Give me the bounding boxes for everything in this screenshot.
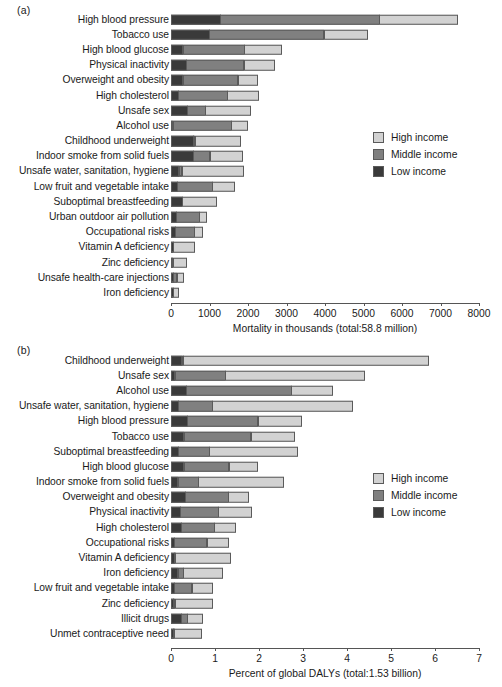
bar-segment-high: [175, 598, 214, 609]
bar-segment-high: [227, 90, 259, 101]
bar-segment-high: [228, 492, 249, 503]
stacked-bar: [171, 507, 252, 518]
bar-segment-high: [174, 629, 201, 640]
legend-swatch-high: [373, 132, 384, 143]
legend-swatch-low: [373, 166, 384, 177]
stacked-bar: [171, 90, 259, 101]
stacked-bar: [171, 257, 187, 268]
bar-row: Unsafe sex: [0, 103, 502, 118]
category-label: Unsafe water, sanitation, hygiene: [19, 401, 169, 411]
bar-row: Tobacco use: [0, 429, 502, 444]
axis-tick: [303, 648, 304, 651]
bar-row: Iron deficiency: [0, 285, 502, 300]
bar-segment-middle: [193, 151, 210, 162]
stacked-bar: [171, 371, 365, 382]
bar-row: Childhood underweight: [0, 353, 502, 368]
axis-tick: [210, 303, 211, 306]
bar-row: Suboptimal breastfeeding: [0, 444, 502, 459]
bar-segment-low: [171, 14, 221, 25]
axis-tick-label: 4: [344, 653, 350, 664]
category-label: Indoor smoke from solid fuels: [36, 151, 169, 161]
category-label: Vitamin A deficiency: [79, 242, 169, 252]
stacked-bar: [171, 583, 213, 594]
legend-label: High income: [391, 132, 448, 143]
bar-segment-middle: [209, 30, 325, 41]
panel-b-axis-title: Percent of global DALYs (total:1.53 bill…: [171, 668, 479, 679]
stacked-bar: [171, 522, 236, 533]
bar-row: Tobacco use: [0, 27, 502, 42]
bar-row: Low fruit and vegetable intake: [0, 581, 502, 596]
bar-segment-middle: [178, 446, 210, 457]
bar-segment-high: [205, 105, 250, 116]
category-label: Zinc deficiency: [102, 257, 169, 267]
stacked-bar: [171, 431, 295, 442]
bar-segment-middle: [174, 538, 207, 549]
legend-label: Low income: [391, 507, 446, 518]
category-label: Physical inactivity: [89, 507, 169, 517]
axis-tick: [325, 303, 326, 306]
bar-row: Iron deficiency: [0, 566, 502, 581]
bar-segment-high: [212, 181, 234, 192]
stacked-bar: [171, 75, 258, 86]
bar-segment-high: [209, 446, 298, 457]
bar-segment-high: [258, 416, 302, 427]
bar-segment-middle: [180, 507, 219, 518]
bar-segment-high: [207, 538, 229, 549]
bar-segment-high: [182, 166, 245, 177]
bar-segment-middle: [173, 121, 232, 132]
legend-label: Middle income: [391, 149, 457, 160]
bar-segment-low: [171, 45, 183, 56]
stacked-bar: [171, 553, 231, 564]
axis-tick: [441, 303, 442, 306]
bar-row: Vitamin A deficiency: [0, 240, 502, 255]
bar-segment-high: [229, 462, 258, 473]
bar-segment-low: [171, 30, 210, 41]
bar-segment-low: [171, 75, 183, 86]
bar-row: High cholesterol: [0, 88, 502, 103]
bar-row: Occupational risks: [0, 535, 502, 550]
bar-segment-low: [171, 105, 188, 116]
bar-segment-middle: [184, 431, 252, 442]
legend-entry: High income: [373, 129, 457, 146]
axis-tick: [171, 303, 172, 306]
bar-segment-high: [173, 257, 187, 268]
legend-label: High income: [391, 473, 448, 484]
stacked-bar: [171, 181, 235, 192]
category-label: Indoor smoke from solid fuels: [36, 477, 169, 487]
bar-segment-middle: [177, 181, 213, 192]
category-label: Low fruit and vegetable intake: [34, 583, 169, 593]
bar-segment-high: [214, 522, 236, 533]
axis-tick: [171, 648, 172, 651]
bar-segment-middle: [186, 60, 244, 71]
category-label: Alcohol use: [116, 386, 169, 396]
category-label: Iron deficiency: [103, 568, 169, 578]
axis-tick: [248, 303, 249, 306]
bar-segment-high: [244, 45, 282, 56]
stacked-bar: [171, 105, 251, 116]
stacked-bar: [171, 614, 203, 625]
stacked-bar: [171, 477, 284, 488]
axis-tick: [402, 303, 403, 306]
bar-segment-high: [182, 197, 217, 208]
category-label: Unsafe water, sanitation, hygiene: [19, 166, 169, 176]
axis-tick-label: 4000: [314, 308, 337, 319]
axis-tick: [479, 648, 480, 651]
stacked-bar: [171, 30, 368, 41]
axis-tick-label: 0: [168, 653, 174, 664]
legend-swatch-middle: [373, 490, 384, 501]
bar-segment-high: [291, 386, 333, 397]
bar-segment-middle: [176, 212, 200, 223]
axis-tick: [435, 648, 436, 651]
legend-label: Low income: [391, 166, 446, 177]
category-label: High blood pressure: [78, 14, 169, 24]
stacked-bar: [171, 151, 243, 162]
bar-row: Unmet contraceptive need: [0, 626, 502, 641]
bar-segment-low: [171, 416, 188, 427]
category-label: Suboptimal breastfeeding: [53, 197, 169, 207]
bar-row: Unsafe water, sanitation, hygiene: [0, 399, 502, 414]
bar-segment-middle: [187, 105, 206, 116]
bar-segment-high: [177, 273, 184, 284]
stacked-bar: [171, 492, 249, 503]
stacked-bar: [171, 242, 195, 253]
stacked-bar: [171, 462, 258, 473]
